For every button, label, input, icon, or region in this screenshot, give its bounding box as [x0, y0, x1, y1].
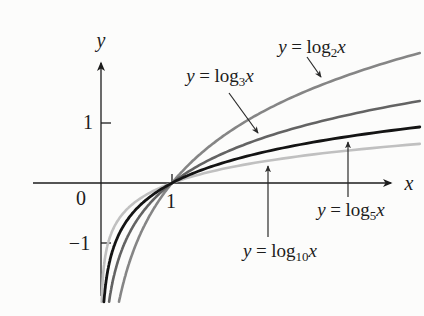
label-log10-func: log — [271, 240, 295, 261]
label-log2-lhs: y — [278, 36, 286, 57]
label-log3-arg: x — [245, 65, 253, 86]
label-log2-arg: x — [337, 36, 345, 57]
y-tick-neg1-label: −1 — [63, 232, 96, 254]
label-log3-curve: y=log3x — [160, 65, 280, 93]
arrow-to-log3-curve — [229, 93, 258, 133]
x-axis-label: x — [400, 172, 418, 194]
label-log2-curve: y=log2x — [252, 36, 372, 64]
y-tick-1-label: 1 — [79, 111, 97, 133]
label-log5-func: log — [345, 199, 369, 220]
label-log3-eq: = — [199, 65, 210, 86]
label-log5-curve: y=log5x — [291, 199, 411, 227]
label-log5-eq: = — [330, 199, 341, 220]
label-log5-lhs: y — [317, 199, 325, 220]
y-axis-label: y — [92, 29, 110, 51]
label-log2-func: log — [306, 36, 330, 57]
label-log10-arg: x — [309, 240, 317, 261]
label-log10-curve: y=log10x — [218, 240, 342, 268]
x-tick-1-label: 1 — [163, 190, 179, 212]
label-log10-eq: = — [256, 240, 267, 261]
label-log2-eq: = — [291, 36, 302, 57]
label-log3-func: log — [214, 65, 238, 86]
label-log10-lhs: y — [243, 240, 251, 261]
origin-label: 0 — [72, 187, 90, 209]
label-log10-base: 10 — [296, 249, 309, 264]
label-log3-lhs: y — [186, 65, 194, 86]
label-log5-arg: x — [376, 199, 384, 220]
log-functions-figure: y x 1 −1 0 1 y=log2x y=log3x y=log5x y=l… — [0, 0, 424, 316]
